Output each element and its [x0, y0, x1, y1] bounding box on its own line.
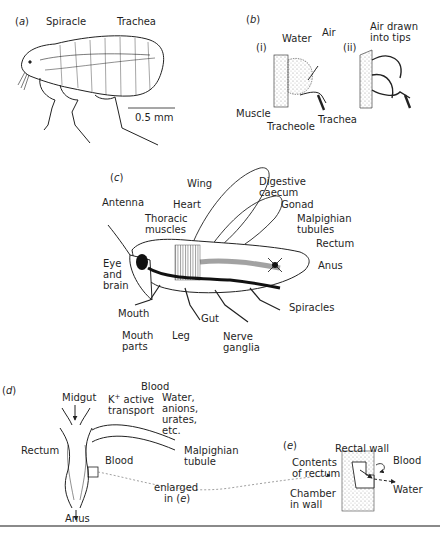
- flea-drawing: [18, 36, 175, 145]
- label-enlarged: enlarged: [154, 482, 198, 493]
- panel-c-letter: c: [114, 172, 120, 183]
- label-sub-ii: (ii): [343, 42, 356, 53]
- label-rectum-d: Rectum: [21, 445, 59, 456]
- label-air-drawn: Air drawn into tips: [370, 21, 418, 43]
- label-k-active-transport: K+ active transport: [108, 392, 154, 416]
- label-trachea-b: Trachea: [318, 114, 357, 125]
- label-heart: Heart: [173, 199, 201, 210]
- label-gonad: Gonad: [281, 199, 314, 210]
- label-water-e: Water: [393, 484, 423, 495]
- label-anus-d: Anus: [65, 513, 90, 524]
- panel-a-tag: (a): [15, 16, 29, 27]
- label-blood-e: Blood: [393, 455, 421, 466]
- label-wing: Wing: [187, 178, 212, 189]
- label-anus-c: Anus: [318, 260, 343, 271]
- tracheole-drawing-i: [274, 55, 326, 110]
- rectal-wall-drawing: [342, 451, 395, 511]
- label-contents-rectum: Contents of rectum: [292, 457, 340, 479]
- label-blood-d: Blood: [105, 455, 133, 466]
- bottom-rule: [0, 525, 440, 527]
- scale-bar-label: 0.5 mm: [135, 112, 174, 123]
- in-e-suffix: ): [186, 493, 190, 504]
- label-mouth-parts: Mouth parts: [122, 330, 153, 352]
- label-spiracle: Spiracle: [46, 16, 86, 27]
- label-eye-brain: Eye and brain: [103, 258, 129, 291]
- label-midgut: Midgut: [62, 392, 96, 403]
- in-e-prefix: in (: [164, 493, 180, 504]
- label-mouth: Mouth: [118, 308, 149, 319]
- panel-d-letter: d: [6, 385, 12, 396]
- label-in-e: in (e): [164, 493, 190, 504]
- label-blood-top: Blood: [141, 381, 169, 392]
- label-antenna: Antenna: [102, 197, 144, 208]
- label-air: Air: [322, 27, 336, 38]
- label-water: Water: [282, 33, 312, 44]
- label-nerve-ganglia: Nerve ganglia: [223, 331, 260, 353]
- label-trachea-a: Trachea: [117, 16, 156, 27]
- panel-a-letter: a: [19, 16, 25, 27]
- label-thoracic-muscles: Thoracic muscles: [145, 213, 188, 235]
- label-spiracles: Spiracles: [289, 302, 334, 313]
- tracheole-drawing-ii: [360, 50, 410, 108]
- label-leg: Leg: [172, 330, 190, 341]
- panel-c-tag: (c): [110, 172, 123, 183]
- label-muscle: Muscle: [236, 108, 271, 119]
- label-tracheole: Tracheole: [267, 121, 315, 132]
- panel-b-letter: b: [250, 14, 256, 25]
- label-chamber-wall: Chamber in wall: [290, 488, 336, 510]
- panel-e-tag: (e): [283, 440, 297, 451]
- panel-e-letter: e: [287, 440, 293, 451]
- label-gut: Gut: [201, 313, 219, 324]
- panel-d-tag: (d): [2, 385, 16, 396]
- label-malpighian-tubules: Malpighian tubules: [297, 213, 352, 235]
- label-digestive-caecum: Digestive caecum: [259, 176, 306, 198]
- label-rectal-wall: Rectal wall: [335, 443, 389, 454]
- panel-b-tag: (b): [246, 14, 260, 25]
- label-rectum-c: Rectum: [316, 238, 354, 249]
- label-malpighian-tubule: Malpighian tubule: [184, 445, 239, 467]
- label-sub-i: (i): [256, 42, 267, 53]
- label-water-anions: Water, anions, urates, etc.: [162, 392, 198, 436]
